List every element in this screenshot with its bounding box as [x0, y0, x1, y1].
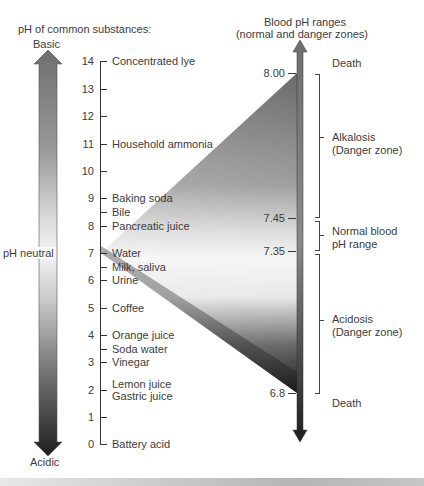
zone-death-bottom: Death	[332, 397, 361, 409]
ph-tick-label: 1	[74, 411, 94, 423]
blood-tick-label: 6.8	[245, 387, 285, 399]
ph-tick-label: 10	[74, 165, 94, 177]
acidosis-bracket	[315, 254, 320, 394]
substance-label: Pancreatic juice	[112, 220, 190, 232]
ph-tick-label: 5	[74, 302, 94, 314]
substance-label: Household ammonia	[112, 138, 213, 150]
zone-acidosis-sub: (Danger zone)	[332, 326, 402, 338]
ph-tick-label: 3	[74, 356, 94, 368]
substance-label: Milk, saliva	[112, 261, 166, 273]
bottom-gradient-band	[0, 478, 424, 486]
substance-label: Vinegar	[112, 356, 150, 368]
zone-normal: Normal blood	[332, 225, 397, 237]
blood-tick-label: 7.45	[245, 212, 285, 224]
ph-tick-label: 8	[74, 220, 94, 232]
ph-tick-label: 4	[74, 329, 94, 341]
substance-label: Lemon juice	[112, 378, 171, 390]
blood-scale-subtitle: (normal and danger zones)	[232, 28, 372, 40]
substance-label: Concentrated lye	[112, 55, 195, 67]
substance-label: Orange juice	[112, 329, 174, 341]
ph-tick-label: 7	[74, 247, 94, 259]
blood-scale-title: Blood pH ranges	[255, 16, 355, 28]
zone-normal-sub: pH range	[332, 238, 377, 250]
blood-ph-arrow-icon	[292, 40, 308, 442]
ph-tick-label: 14	[74, 55, 94, 67]
ph-tick-label: 2	[74, 384, 94, 396]
ph-tick-label: 11	[74, 138, 94, 150]
substance-label: Coffee	[112, 302, 144, 314]
alkalosis-bracket	[315, 74, 320, 218]
ph-tick-label: 0	[74, 438, 94, 450]
normal-range-bracket	[315, 221, 320, 251]
ph-tick-label: 9	[74, 192, 94, 204]
substance-label: Urine	[112, 274, 138, 286]
ph-tick-label: 13	[74, 83, 94, 95]
zone-death-top: Death	[332, 57, 361, 69]
substance-label: Water	[112, 247, 141, 259]
substance-label: Battery acid	[112, 438, 170, 450]
ph-tick-label: 12	[74, 110, 94, 122]
substance-label: Gastric juice	[112, 390, 173, 402]
zone-alkalosis-sub: (Danger zone)	[332, 144, 402, 156]
substance-label: Baking soda	[112, 192, 173, 204]
blood-tick-label: 8.00	[245, 67, 285, 79]
blood-tick-label: 7.35	[245, 245, 285, 257]
zone-alkalosis: Alkalosis	[332, 131, 375, 143]
substance-label: Soda water	[112, 343, 168, 355]
substance-label: Bile	[112, 206, 130, 218]
ph-tick-label: 6	[74, 274, 94, 286]
zone-acidosis: Acidosis	[332, 313, 373, 325]
